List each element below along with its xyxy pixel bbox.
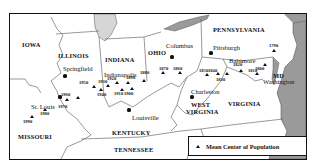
- population-center-triangle-icon: [126, 81, 130, 84]
- wv-north: [187, 57, 202, 77]
- population-center-triangle-icon: [239, 69, 243, 72]
- year-label: 1870: [159, 67, 168, 72]
- city-label: Charleston: [191, 89, 220, 96]
- state-label: VIRGINIA: [228, 101, 261, 107]
- wisconsin-border: [56, 31, 99, 34]
- city-dot-icon: [127, 108, 130, 111]
- kentucky-virginia-border: [171, 105, 177, 131]
- mississippi-river: [51, 17, 91, 159]
- ohio-north: [144, 32, 161, 37]
- year-label: 1820: [233, 63, 242, 68]
- year-label: 1970: [58, 105, 67, 110]
- year-label: 1940: [97, 93, 106, 98]
- year-label: 1900: [124, 92, 133, 97]
- city-label: Pittsburgh: [213, 45, 240, 52]
- legend-label: Mean Center of Population: [206, 143, 279, 150]
- state-label: INDIANA: [105, 57, 134, 63]
- triangle-icon: [196, 145, 200, 148]
- year-label: 1860: [173, 67, 182, 72]
- city-dot-icon: [209, 51, 212, 54]
- year-label: 1990: [23, 120, 32, 125]
- state-label: PENNSYLVANIA: [213, 27, 265, 33]
- city-dot-icon: [190, 95, 193, 98]
- city-label: Springfield: [63, 66, 93, 73]
- year-label: 1830: [216, 78, 225, 83]
- population-center-triangle-icon: [65, 98, 69, 101]
- population-center-triangle-icon: [130, 87, 134, 90]
- lake-erie: [164, 15, 209, 31]
- state-label: IOWA: [22, 42, 41, 48]
- state-label: TENNESSEE: [114, 147, 153, 153]
- city-label: Columbus: [166, 43, 193, 50]
- city-dot-icon: [170, 55, 173, 58]
- state-label: OHIO: [148, 50, 166, 56]
- year-label: 1960: [61, 93, 70, 98]
- year-label: 1950: [79, 81, 88, 86]
- state-label: VIRGINIA: [186, 109, 219, 115]
- state-label: KENTUCKY: [112, 130, 151, 136]
- year-label: 1980: [40, 112, 49, 117]
- year-label: 1890: [126, 76, 135, 81]
- year-label: 1930: [98, 80, 107, 85]
- year-label: 1880: [140, 71, 149, 76]
- year-label: 1790: [269, 44, 278, 49]
- year-label: 1840: [208, 69, 217, 74]
- iowa-missouri-border: [10, 79, 41, 93]
- city-label: Louisville: [132, 115, 159, 122]
- population-center-triangle-icon: [142, 79, 146, 82]
- state-label: MISSOURI: [18, 134, 52, 140]
- map-frame: IOWAILLINOISINDIANAOHIOPENNSYLVANIAMDWES…: [9, 13, 307, 160]
- year-label: 1850: [199, 69, 208, 74]
- city-label: Washington: [263, 79, 294, 86]
- city-dot-icon: [63, 74, 66, 77]
- population-center-triangle-icon: [92, 85, 96, 88]
- legend: Mean Center of Population: [188, 136, 307, 156]
- year-label: 1920: [107, 77, 116, 82]
- population-center-triangle-icon: [76, 96, 80, 99]
- lake-michigan: [94, 14, 117, 41]
- population-center-triangle-icon: [30, 115, 34, 118]
- state-label: ILLINOIS: [58, 53, 89, 59]
- year-label: 1910: [114, 92, 123, 97]
- year-label: 1810: [248, 69, 257, 74]
- population-center-triangle-icon: [225, 72, 229, 75]
- population-center-triangle-icon: [99, 88, 103, 91]
- population-center-triangle-icon: [272, 49, 276, 52]
